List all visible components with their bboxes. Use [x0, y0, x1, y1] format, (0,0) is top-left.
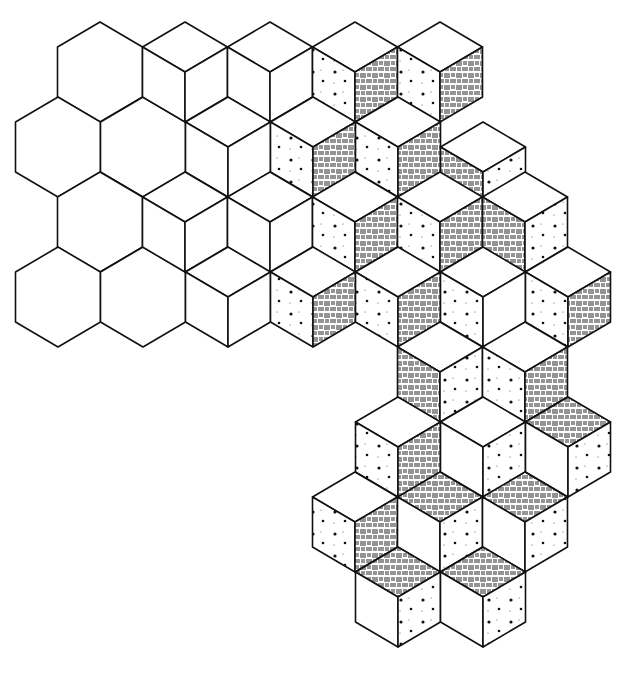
cube-group — [143, 22, 611, 647]
tessellation-figure — [0, 0, 626, 677]
